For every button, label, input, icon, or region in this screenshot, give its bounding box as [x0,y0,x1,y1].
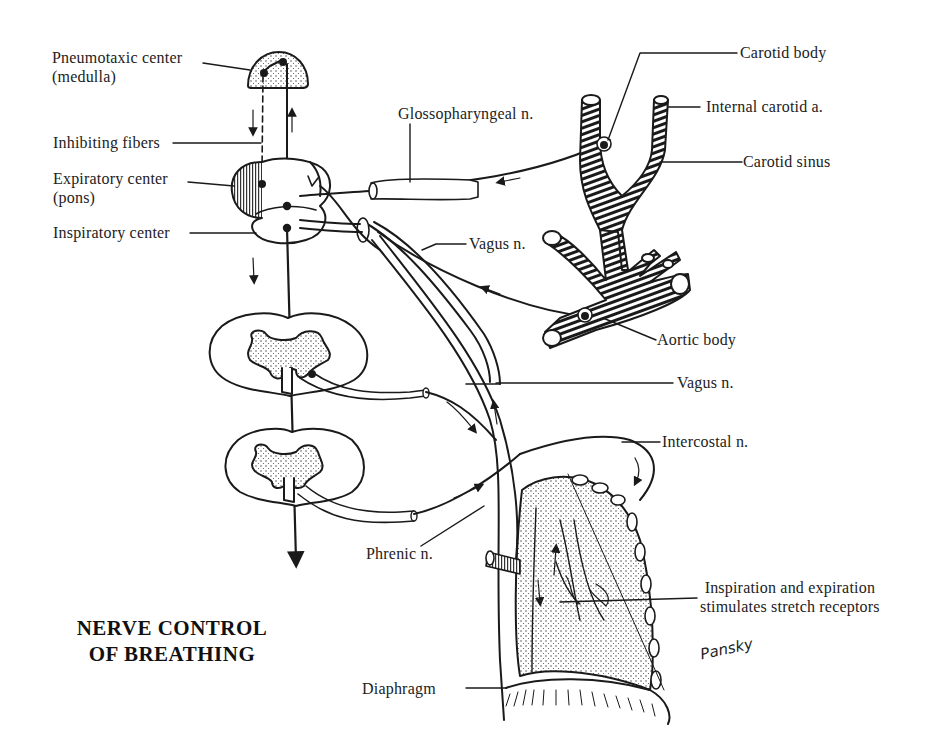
pons-shape [232,159,330,244]
label-vagus-n-upper: Vagus n. [469,235,526,253]
lung-shape [516,477,653,690]
label-pneumotaxic-center-line2: (medulla) [52,67,182,86]
label-stretch-receptors-line2: stimulates stretch receptors [700,597,880,616]
figure-title-line2: OF BREATHING [52,641,292,667]
figure-title: NERVE CONTROL OF BREATHING [52,615,292,667]
carotid-artery [580,95,668,270]
label-expiratory-center-line2: (pons) [53,188,168,207]
label-carotid-body: Carotid body [740,44,826,62]
label-expiratory-center: Expiratory center (pons) [53,169,168,207]
label-diaphragm: Diaphragm [362,680,436,698]
label-internal-carotid-a: Internal carotid a. [706,98,823,116]
label-expiratory-center-line1: Expiratory center [53,169,168,188]
trachea-stub [486,551,520,574]
pneumotaxic-center-shape [248,52,308,88]
label-stretch-receptors-line1: Inspiration and expiration [700,578,880,597]
label-aortic-body: Aortic body [657,331,736,349]
label-inhibiting-fibers: Inhibiting fibers [53,134,160,152]
label-inspiratory-center: Inspiratory center [53,224,170,242]
figure-title-line1: NERVE CONTROL [52,615,292,641]
label-intercostal-n: Intercostal n. [662,433,748,451]
label-vagus-n-lower: Vagus n. [677,374,734,392]
spinal-cord-section-lower [225,429,520,523]
label-pneumotaxic-center: Pneumotaxic center (medulla) [52,48,182,86]
glossopharyngeal-nerve [300,140,610,200]
label-phrenic-n: Phrenic n. [366,545,433,563]
label-stretch-receptors: Inspiration and expiration stimulates st… [700,578,880,616]
label-glossopharyngeal-n: Glossopharyngeal n. [398,105,533,123]
label-pneumotaxic-center-line1: Pneumotaxic center [52,48,182,67]
label-carotid-sinus: Carotid sinus [743,153,831,171]
